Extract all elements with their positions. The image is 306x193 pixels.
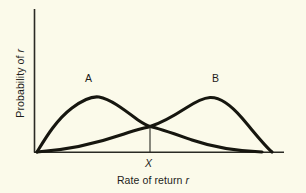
y-axis-label: Probability of r (15, 28, 26, 138)
y-axis-label-symbol: r (14, 49, 26, 53)
curve-b (37, 97, 272, 152)
chart-plot-area (0, 0, 306, 193)
y-axis-label-text: Probability of (14, 53, 26, 118)
intersection-x-label: X (145, 158, 152, 169)
curve-b-label: B (212, 73, 219, 84)
x-axis-label: Rate of return r (0, 175, 306, 186)
chart-figure: Probability of r Rate of return r A B X (0, 0, 306, 193)
x-axis-label-symbol: r (186, 174, 190, 186)
x-axis-label-text: Rate of return (117, 174, 186, 186)
curve-a-label: A (85, 73, 92, 84)
